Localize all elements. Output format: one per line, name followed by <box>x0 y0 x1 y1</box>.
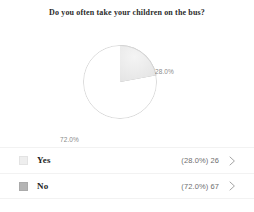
legend-row-yes[interactable]: Yes (28.0%) 26 <box>0 147 254 173</box>
pie-label-yes: 28.0% <box>155 68 174 76</box>
legend-swatch-no <box>19 182 28 191</box>
legend-swatch-yes <box>19 156 28 165</box>
chevron-right-icon[interactable] <box>229 156 236 166</box>
legend-label-no: No <box>37 181 48 192</box>
chevron-right-icon[interactable] <box>229 181 236 191</box>
pie-graphic <box>83 45 157 119</box>
pie-slices <box>83 45 157 119</box>
legend-value-no: (72.0%) 67 <box>181 182 219 191</box>
legend-row-no[interactable]: No (72.0%) 67 <box>0 173 254 199</box>
poll-result-card: Do you often take your children on the b… <box>0 0 254 212</box>
pie-svg <box>83 45 157 119</box>
pie-chart: 28.0% 72.0% <box>0 26 254 138</box>
legend-list: Yes (28.0%) 26 No (72.0%) 67 <box>0 147 254 199</box>
legend-label-yes: Yes <box>37 155 51 166</box>
page-title: Do you often take your children on the b… <box>0 7 254 18</box>
pie-label-no: 72.0% <box>60 136 79 144</box>
legend-value-yes: (28.0%) 26 <box>181 156 219 165</box>
